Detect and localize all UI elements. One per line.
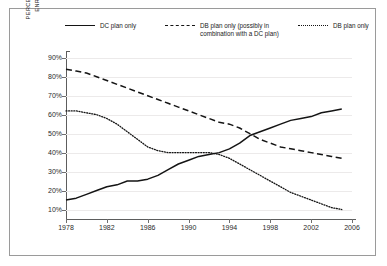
legend-item-dc-plan-only: DC plan only xyxy=(65,22,160,30)
x-tick-label: 1978 xyxy=(46,224,86,231)
x-tick-mark xyxy=(107,219,108,223)
x-tick-label: 2006 xyxy=(332,224,372,231)
x-axis-line xyxy=(66,219,356,220)
legend-item-db-plan-only: DB plan only xyxy=(298,22,378,30)
x-tick-mark xyxy=(270,219,271,223)
x-tick-label: 1994 xyxy=(209,224,249,231)
y-tick-label: 60% xyxy=(36,111,62,118)
x-tick-mark xyxy=(229,219,230,223)
x-tick-label: 1990 xyxy=(169,224,209,231)
y-tick-label: 30% xyxy=(36,168,62,175)
series-line xyxy=(66,69,342,158)
x-tick-mark xyxy=(311,219,312,223)
figure-frame: DC plan only DB plan only (possibly in c… xyxy=(9,8,376,256)
series-line xyxy=(66,111,342,210)
legend-label: DC plan only xyxy=(100,22,160,30)
x-tick-label: 1986 xyxy=(128,224,168,231)
legend-swatch-dashed-icon xyxy=(165,25,195,28)
legend-swatch-dotted-icon xyxy=(298,25,328,28)
y-tick-label: 10% xyxy=(36,206,62,213)
y-axis-title: PERCENTAGE OF ACTIVE WORKERS ENROLLED IN… xyxy=(24,0,42,46)
y-tick-label: 90% xyxy=(36,54,62,61)
y-axis-cap xyxy=(66,51,70,52)
y-tick-label: 40% xyxy=(36,149,62,156)
x-tick-label: 2002 xyxy=(291,224,331,231)
legend-label: DB plan only xyxy=(333,22,378,30)
series-line xyxy=(66,109,342,200)
x-tick-mark xyxy=(189,219,190,223)
y-tick-label: 70% xyxy=(36,92,62,99)
x-tick-label: 1982 xyxy=(87,224,127,231)
legend-item-db-plan-possibly-with-dc: DB plan only (possibly in combination wi… xyxy=(165,22,285,38)
y-tick-label: 20% xyxy=(36,187,62,194)
y-tick-label: 50% xyxy=(36,130,62,137)
x-tick-label: 1998 xyxy=(250,224,290,231)
x-tick-mark xyxy=(352,219,353,223)
legend-swatch-solid-icon xyxy=(65,25,95,28)
legend-label: DB plan only (possibly in combination wi… xyxy=(200,22,285,38)
plot-area: PERCENTAGE OF ACTIVE WORKERS ENROLLED IN… xyxy=(66,54,352,219)
x-tick-mark xyxy=(148,219,149,223)
chart-legend: DC plan only DB plan only (possibly in c… xyxy=(10,19,377,51)
x-tick-mark xyxy=(66,219,67,223)
y-tick-label: 80% xyxy=(36,73,62,80)
series-lines xyxy=(66,54,352,219)
